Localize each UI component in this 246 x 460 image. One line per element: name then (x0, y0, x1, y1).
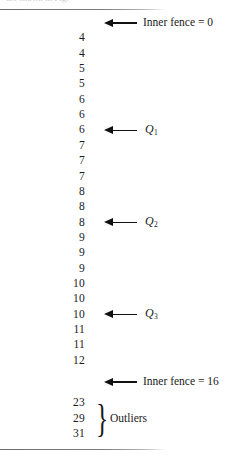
outlier-value: 31 (0, 426, 85, 441)
left-arrow-icon (104, 218, 137, 227)
stemplot-row: 8 (0, 184, 246, 199)
outliers-brace-group: }Outliers (96, 395, 147, 441)
data-value: 11 (0, 337, 85, 352)
stemplot-row: 12 (0, 353, 246, 368)
data-value: 5 (0, 61, 85, 76)
curly-brace-icon: } (96, 400, 106, 438)
data-value: 4 (0, 46, 85, 61)
left-arrow-icon (104, 126, 137, 135)
data-value: 10 (0, 307, 85, 322)
data-value: 7 (0, 169, 85, 184)
stemplot-row: 8Q2 (0, 215, 246, 230)
quartile-annotation-q2: Q2 (104, 215, 157, 230)
stemplot-row: Inner fence = 16 (0, 374, 246, 389)
quartile-subscript: 2 (154, 220, 158, 229)
data-value: 7 (0, 138, 85, 153)
data-value: 6 (0, 107, 85, 122)
stemplot-row: 9 (0, 261, 246, 276)
stemplot-row: 10 (0, 291, 246, 306)
quartile-subscript: 1 (154, 128, 158, 137)
data-value: 6 (0, 122, 85, 137)
stemplot-row: 10 (0, 276, 246, 291)
data-value: 9 (0, 245, 85, 260)
quartile-label: Q1 (137, 122, 157, 138)
stemplot-row: 6 (0, 107, 246, 122)
quartile-subscript: 3 (154, 312, 158, 321)
stemplot-row: 7 (0, 153, 246, 168)
quartile-annotation-q1: Q1 (104, 122, 157, 137)
outlier-value: 23 (0, 395, 85, 410)
stemplot-row: 8 (0, 199, 246, 214)
data-value: 8 (0, 184, 85, 199)
fence-annotation: Inner fence = 0 (104, 15, 213, 30)
data-value: 10 (0, 276, 85, 291)
stemplot-row: 7 (0, 169, 246, 184)
data-value: 8 (0, 199, 85, 214)
quartile-annotation-q3: Q3 (104, 307, 157, 322)
data-value: 4 (0, 30, 85, 45)
stemplot-row: 5 (0, 61, 246, 76)
stemplot-row: 5 (0, 76, 246, 91)
left-arrow-icon (104, 18, 137, 27)
stemplot-row: 11 (0, 337, 246, 352)
data-value: 10 (0, 291, 85, 306)
quartile-letter: Q (145, 122, 154, 136)
data-value: 12 (0, 353, 85, 368)
data-value: 9 (0, 230, 85, 245)
stemplot-row: 9 (0, 245, 246, 260)
data-value: 6 (0, 92, 85, 107)
data-value: 9 (0, 261, 85, 276)
stemplot-row: 9 (0, 230, 246, 245)
quartile-letter: Q (145, 306, 154, 320)
left-arrow-icon (104, 377, 137, 386)
outlier-value: 29 (0, 411, 85, 426)
data-value: 8 (0, 215, 85, 230)
quartile-label: Q2 (137, 214, 157, 230)
stemplot-row: 7 (0, 138, 246, 153)
fence-annotation: Inner fence = 16 (104, 374, 219, 389)
stemplot-row: 6 (0, 92, 246, 107)
outliers-label: Outliers (110, 412, 147, 424)
stemplot-row: Inner fence = 0 (0, 15, 246, 30)
data-value: 11 (0, 322, 85, 337)
stemplot-row: 4 (0, 46, 246, 61)
stemplot-row: 4 (0, 30, 246, 45)
quartile-label: Q3 (137, 306, 157, 322)
left-arrow-icon (104, 310, 137, 319)
fence-label: Inner fence = 16 (137, 374, 219, 389)
stemplot-row: 6Q1 (0, 122, 246, 137)
data-value: 5 (0, 76, 85, 91)
stemplot-row: 11 (0, 322, 246, 337)
stemplot-outlier-figure: { "figure": { "title_sliver": "are shown… (0, 0, 246, 460)
fence-label: Inner fence = 0 (137, 15, 213, 30)
data-value: 7 (0, 153, 85, 168)
stemplot-rows-container: Inner fence = 04455666Q1777888Q299910101… (0, 0, 246, 460)
stemplot-row: 10Q3 (0, 307, 246, 322)
quartile-letter: Q (145, 214, 154, 228)
